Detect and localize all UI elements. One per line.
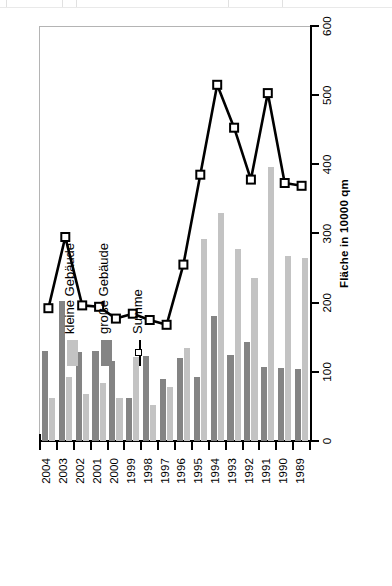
summe-data-marker [163,321,171,329]
legend-label: große Gebäude [96,243,111,334]
summe-polyline [48,85,301,325]
summe-data-marker [281,179,289,187]
summe-data-marker [196,171,204,179]
summe-data-marker [213,81,221,89]
summe-line-layer [31,16,361,516]
legend-label: kleine Gebäude [62,243,77,334]
summe-data-marker [112,315,120,323]
summe-data-marker [298,182,306,190]
summe-data-marker [264,89,272,97]
summe-data-marker [44,304,52,312]
summe-data-marker [179,261,187,269]
legend-swatch-icon [101,340,112,366]
summe-data-marker [146,316,154,324]
legend-square-marker-icon [135,349,142,356]
legend-label: Summe [130,289,145,334]
scan-artifact-strip [0,0,392,8]
summe-data-marker [230,124,238,132]
legend-swatch-icon [67,340,78,366]
summe-data-marker [247,176,255,184]
chart-page: 0100200300400500600 Fläche in 10000 qm 1… [0,0,392,586]
rotated-chart-stage: 0100200300400500600 Fläche in 10000 qm 1… [31,16,361,516]
summe-data-marker [61,233,69,241]
summe-data-marker [78,301,86,309]
